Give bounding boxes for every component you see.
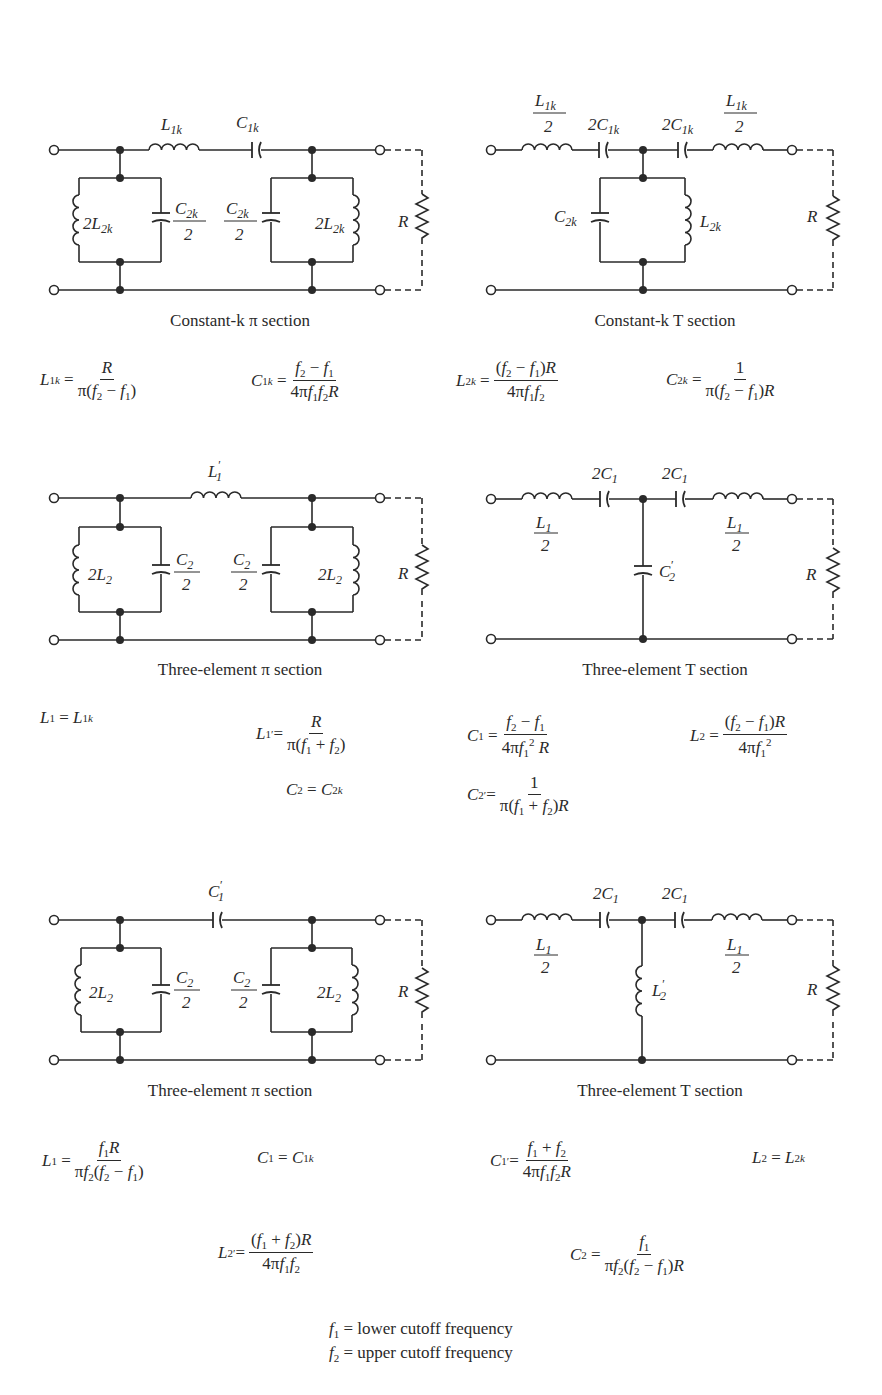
svg-text:L1k: L1k [160, 115, 182, 137]
equation-L2-group2: L2 =(f2 − f1)R4πf12 [690, 712, 787, 759]
svg-text:R: R [806, 980, 818, 999]
caption-three-element-t-b: Three-element T section [577, 1081, 743, 1100]
caption-three-element-pi-a: Three-element π section [158, 660, 323, 679]
svg-text:2L2k: 2L2k [83, 214, 113, 236]
equation-C2-prime: C2′=1π(f1 + f2)R [467, 773, 569, 817]
equation-L1k: L1k =Rπ(f2 − f1) [40, 358, 136, 402]
equation-L1-group2: L1 = L1k [40, 708, 93, 728]
svg-text:2: 2 [239, 993, 248, 1012]
equation-L1-group3: L1 =f1Rπf2(f2 − f1) [42, 1138, 144, 1184]
svg-text:2L2: 2L2 [89, 983, 113, 1005]
svg-text:2L2k: 2L2k [315, 214, 345, 236]
svg-text:2: 2 [541, 958, 550, 977]
svg-text:C2k: C2k [554, 207, 577, 229]
svg-text:2: 2 [732, 536, 741, 555]
equation-C1-prime: C1′=f1 + f24πf1f2R [490, 1138, 571, 1184]
svg-text:2: 2 [544, 117, 553, 136]
legend-f2-text: = upper cutoff frequency [343, 1343, 512, 1362]
svg-text:2: 2 [235, 225, 244, 244]
svg-text:C′2: C′2 [659, 558, 675, 584]
svg-text:R: R [806, 207, 818, 226]
equation-C1-group3: C1 = C1k [257, 1148, 314, 1168]
svg-text:L1: L1 [726, 513, 742, 535]
equation-C2-group2: C2 = C2k [286, 780, 343, 800]
legend-f2: f2 = upper cutoff frequency [329, 1343, 513, 1364]
svg-text:2C1: 2C1 [592, 464, 618, 486]
caption-constant-k-t: Constant-k T section [594, 311, 736, 330]
svg-text:2C1: 2C1 [662, 464, 688, 486]
svg-text:2: 2 [541, 536, 550, 555]
equation-C1-group2: C1 =f2 − f14πf12 R [467, 712, 549, 759]
caption-three-element-t-a: Three-element T section [582, 660, 748, 679]
equation-L2k: L2k =(f2 − f1)R4πf1f2 [456, 358, 558, 404]
equation-C2-group3: C2 =f1πf2(f2 − f1)R [570, 1232, 684, 1278]
svg-text:C2k: C2k [226, 199, 249, 221]
svg-text:L1k: L1k [725, 91, 747, 113]
svg-text:2: 2 [182, 993, 191, 1012]
svg-text:C2: C2 [176, 968, 193, 990]
caption-three-element-pi-b: Three-element π section [148, 1081, 313, 1100]
legend-f1: f1 = lower cutoff frequency [329, 1319, 513, 1340]
svg-text:L1k: L1k [534, 91, 556, 113]
svg-text:2L2: 2L2 [88, 565, 112, 587]
svg-text:2C1k: 2C1k [588, 115, 620, 137]
svg-text:L′1: L′1 [207, 458, 222, 484]
svg-text:2C1: 2C1 [593, 884, 619, 906]
caption-constant-k-pi: Constant-k π section [170, 311, 310, 330]
component-labels: L1k C1k 2L2k C2k 2 C2k 2 2L2k R L1k 2 2C… [83, 91, 818, 1012]
svg-text:L1: L1 [535, 513, 551, 535]
equation-L1-prime: L1′=Rπ(f1 + f2) [256, 712, 345, 756]
equation-C2k: C2k =1π(f2 − f1)R [666, 358, 774, 402]
svg-text:L1: L1 [726, 935, 742, 957]
svg-text:L′2: L′2 [651, 977, 666, 1003]
svg-text:2: 2 [239, 575, 248, 594]
svg-text:2: 2 [735, 117, 744, 136]
svg-text:C2: C2 [233, 968, 250, 990]
svg-text:R: R [805, 565, 817, 584]
svg-text:2: 2 [182, 575, 191, 594]
svg-text:R: R [397, 212, 409, 231]
svg-text:2C1k: 2C1k [662, 115, 694, 137]
svg-text:C2: C2 [176, 550, 193, 572]
svg-text:L2k: L2k [699, 212, 721, 234]
filter-circuits: L1k C1k 2L2k C2k 2 C2k 2 2L2k R L1k 2 2C… [0, 0, 882, 1395]
svg-text:R: R [397, 564, 409, 583]
svg-text:R: R [397, 982, 409, 1001]
equation-L2-prime: L2′=(f1 + f2)R4πf1f2 [218, 1230, 313, 1276]
svg-text:2L2: 2L2 [317, 983, 341, 1005]
svg-text:C2: C2 [233, 550, 250, 572]
svg-text:2C1: 2C1 [662, 884, 688, 906]
legend-f1-text: = lower cutoff frequency [343, 1319, 512, 1338]
svg-text:C2k: C2k [175, 199, 198, 221]
circuit-constant-k-t [487, 142, 840, 295]
svg-text:C1k: C1k [236, 113, 259, 135]
equation-L2-group3: L2 = L2k [752, 1148, 805, 1168]
svg-text:2: 2 [184, 225, 193, 244]
svg-text:L1: L1 [535, 935, 551, 957]
equation-C1k: C1k =f2 − f14πf1f2R [251, 358, 339, 404]
svg-text:C′1: C′1 [208, 878, 224, 904]
svg-text:2L2: 2L2 [318, 565, 342, 587]
svg-text:2: 2 [732, 958, 741, 977]
